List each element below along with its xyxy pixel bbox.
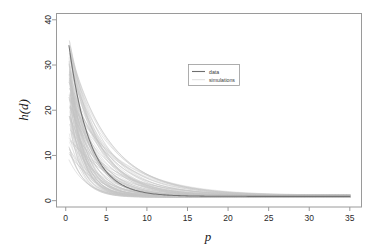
x-tick-label: 0 xyxy=(63,213,68,223)
scatter-line-plot: 010203040 05101520253035 h(d) p datasimu… xyxy=(0,0,380,252)
figure-container: 010203040 05101520253035 h(d) p datasimu… xyxy=(0,0,380,252)
y-tick-label: 30 xyxy=(43,60,53,70)
legend: datasimulations xyxy=(189,65,240,86)
simulation-curve xyxy=(71,108,350,195)
x-tick-label: 15 xyxy=(183,213,193,223)
y-axis: 010203040 xyxy=(43,15,56,203)
legend-label: simulations xyxy=(209,77,235,83)
legend-label: data xyxy=(209,69,219,75)
simulation-curve xyxy=(70,124,350,197)
x-tick-label: 25 xyxy=(264,213,274,223)
simulation-curve xyxy=(70,106,350,196)
y-tick-label: 40 xyxy=(43,15,53,25)
simulation-curve xyxy=(70,118,350,195)
x-axis-title: p xyxy=(204,229,212,244)
y-tick-label: 0 xyxy=(43,198,53,203)
x-tick-label: 5 xyxy=(104,213,109,223)
simulation-curve xyxy=(70,124,350,196)
y-tick-label: 10 xyxy=(43,150,53,160)
x-tick-label: 20 xyxy=(223,213,233,223)
x-axis: 05101520253035 xyxy=(63,207,354,223)
x-tick-label: 35 xyxy=(345,213,355,223)
simulation-curve xyxy=(71,106,350,196)
y-tick-label: 20 xyxy=(43,105,53,115)
x-tick-label: 30 xyxy=(305,213,315,223)
x-tick-label: 10 xyxy=(142,213,152,223)
y-axis-title: h(d) xyxy=(16,99,31,121)
simulation-curves-group xyxy=(69,41,350,198)
